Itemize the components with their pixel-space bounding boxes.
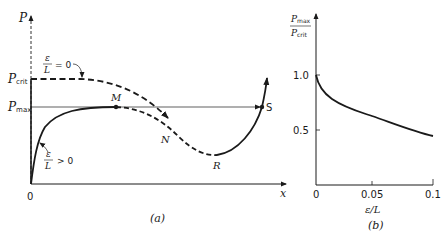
label-r: R (212, 160, 221, 171)
point-m (114, 105, 118, 109)
label-m: M (110, 92, 122, 103)
y-tick-1: 1.0 (293, 70, 309, 81)
x-axis-label-b: ε/L (365, 204, 381, 215)
curve-unstable-branch (116, 107, 217, 155)
pmax-ratio-curve (316, 75, 433, 136)
y-tick-05: 0.5 (293, 125, 309, 136)
y-axis-label-a: P (18, 11, 28, 25)
caption-a: (a) (150, 212, 165, 225)
figure-canvas: P x 0 Pcrit Pmax M N R S ε L (0, 0, 446, 238)
x-tick-01: 0.1 (425, 189, 441, 200)
label-s: S (266, 102, 272, 113)
label-n: N (160, 134, 171, 145)
svg-text:ε: ε (46, 149, 51, 159)
origin-label-a: 0 (27, 191, 33, 202)
svg-text:L: L (44, 161, 51, 171)
svg-text:ε: ε (45, 53, 50, 63)
panel-b: 1.0 0.5 0 0.05 0.1 Pmax Pcrit ε/L (b) (290, 14, 441, 232)
curve-eps-positive (31, 107, 116, 184)
x-tick-0: 0 (313, 189, 319, 200)
curve-eps-zero (31, 79, 168, 118)
annotation-eps-positive: ε L > 0 (40, 143, 73, 171)
point-s (260, 105, 264, 109)
svg-text:L: L (43, 65, 50, 75)
x-axis-label-a: x (280, 187, 287, 200)
x-tick-005: 0.05 (361, 189, 383, 200)
curve-post-buckling (217, 78, 267, 155)
y-axis-label-b: Pmax Pcrit (290, 14, 311, 38)
annotation-eps-zero: ε L = 0 (43, 53, 82, 77)
panel-a: P x 0 Pcrit Pmax M N R S ε L (7, 11, 287, 225)
caption-b: (b) (368, 219, 384, 232)
svg-text:Pcrit: Pcrit (290, 28, 307, 38)
p-max-label: Pmax (7, 100, 31, 114)
svg-text:> 0: > 0 (57, 156, 73, 166)
p-crit-label: Pcrit (7, 72, 28, 86)
svg-text:Pmax: Pmax (290, 14, 311, 24)
svg-text:= 0: = 0 (55, 60, 71, 70)
